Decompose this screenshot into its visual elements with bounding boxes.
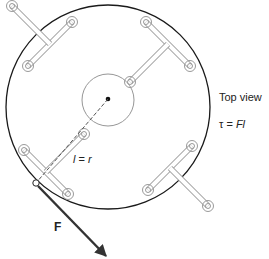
top-view-label: Top view [219, 91, 262, 103]
turntable-diagram: Top view τ = Fl l = r F [0, 0, 269, 259]
slot-bottom-right [143, 141, 214, 212]
force-arrow [38, 186, 106, 256]
lever-length-label: l = r [73, 153, 93, 165]
force-label: F [54, 220, 61, 234]
application-point [33, 180, 39, 186]
slot-top-right [125, 17, 196, 88]
torque-equation: τ = Fl [219, 118, 246, 130]
